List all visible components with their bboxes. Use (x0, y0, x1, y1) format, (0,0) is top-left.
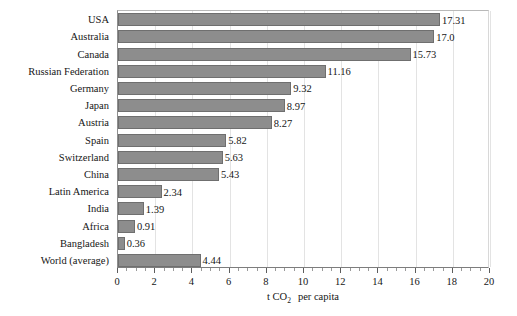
minor-tick (322, 268, 323, 271)
bar-row: 17.31 (118, 13, 488, 26)
minor-tick (350, 268, 351, 271)
bar-row: 4.44 (118, 254, 488, 267)
x-axis-title-subscript: 2 (287, 296, 291, 305)
x-tick-label: 14 (372, 276, 383, 288)
bar-value-label: 9.32 (291, 83, 311, 94)
bar (118, 185, 162, 198)
category-label: World (average) (41, 255, 109, 266)
bar-value-label: 5.82 (226, 135, 246, 146)
x-tick-label: 8 (263, 276, 268, 288)
minor-tick (470, 268, 471, 271)
bar (118, 13, 440, 26)
category-label: Japan (85, 100, 109, 111)
bar-series: 17.3117.015.7311.169.328.978.275.825.635… (118, 11, 488, 267)
major-tick (154, 268, 155, 273)
bar-row: 0.91 (118, 220, 488, 233)
x-tick-label: 20 (484, 276, 495, 288)
x-tick-label: 2 (152, 276, 157, 288)
x-tick-label: 10 (298, 276, 309, 288)
x-tick-label: 6 (226, 276, 231, 288)
plot-area: 17.3117.015.7311.169.328.978.275.825.635… (117, 10, 489, 268)
bar-row: 17.0 (118, 30, 488, 43)
major-tick (191, 268, 192, 273)
bar (118, 82, 291, 95)
minor-tick (145, 268, 146, 271)
gridline (490, 11, 491, 267)
x-tick-label: 0 (114, 276, 119, 288)
minor-tick (275, 268, 276, 271)
x-tick-label: 4 (189, 276, 194, 288)
bar-value-label: 0.36 (125, 238, 145, 249)
category-label: Russian Federation (28, 66, 109, 77)
bar (118, 202, 144, 215)
minor-tick (201, 268, 202, 271)
x-axis-tick-labels: 02468101214161820 (117, 276, 489, 290)
minor-tick (359, 268, 360, 271)
minor-tick (238, 268, 239, 271)
category-label: Australia (71, 31, 110, 42)
bar-row: 15.73 (118, 48, 488, 61)
bar (118, 99, 285, 112)
bar-row: 8.97 (118, 99, 488, 112)
minor-tick (461, 268, 462, 271)
bar-value-label: 17.31 (440, 14, 466, 25)
bar (118, 30, 434, 43)
bar (118, 254, 201, 267)
bar (118, 237, 125, 250)
bar (118, 48, 411, 61)
minor-tick (424, 268, 425, 271)
bar-value-label: 15.73 (411, 49, 437, 60)
minor-tick (219, 268, 220, 271)
x-tick-label: 16 (409, 276, 420, 288)
bar (118, 116, 272, 129)
minor-tick (331, 268, 332, 271)
category-label: USA (88, 14, 109, 25)
minor-tick (368, 268, 369, 271)
minor-tick (480, 268, 481, 271)
major-tick (229, 268, 230, 273)
minor-tick (294, 268, 295, 271)
minor-tick (164, 268, 165, 271)
major-tick (489, 268, 490, 273)
bar-row: 2.34 (118, 185, 488, 198)
minor-tick (405, 268, 406, 271)
minor-tick (312, 268, 313, 271)
minor-tick (396, 268, 397, 271)
category-label: Switzerland (59, 152, 109, 163)
category-label: India (87, 203, 109, 214)
bar-row: 1.39 (118, 202, 488, 215)
x-axis-ticks (117, 268, 489, 276)
minor-tick (257, 268, 258, 271)
bar (118, 65, 326, 78)
x-tick-label: 18 (447, 276, 458, 288)
x-axis-title-pre: t CO (267, 291, 287, 302)
bar-value-label: 5.43 (219, 169, 239, 180)
bar-row: 8.27 (118, 116, 488, 129)
minor-tick (126, 268, 127, 271)
bar-value-label: 2.34 (162, 186, 182, 197)
category-label: China (84, 169, 109, 180)
bar-value-label: 8.27 (272, 117, 292, 128)
major-tick (377, 268, 378, 273)
x-axis-title-post: per capita (298, 291, 339, 302)
bar-row: 0.36 (118, 237, 488, 250)
bar-row: 5.82 (118, 134, 488, 147)
bar-value-label: 0.91 (135, 221, 155, 232)
category-label: Africa (82, 221, 109, 232)
bar-chart: USAAustraliaCanadaRussian FederationGerm… (0, 0, 517, 316)
bar (118, 151, 223, 164)
bar-row: 5.43 (118, 168, 488, 181)
bar-value-label: 17.0 (434, 31, 454, 42)
minor-tick (387, 268, 388, 271)
minor-tick (210, 268, 211, 271)
minor-tick (182, 268, 183, 271)
category-label: Germany (70, 83, 109, 94)
x-tick-label: 12 (335, 276, 346, 288)
major-tick (117, 268, 118, 273)
category-label: Spain (85, 135, 109, 146)
bar (118, 134, 226, 147)
minor-tick (284, 268, 285, 271)
bar-row: 5.63 (118, 151, 488, 164)
bar-row: 11.16 (118, 65, 488, 78)
major-tick (303, 268, 304, 273)
